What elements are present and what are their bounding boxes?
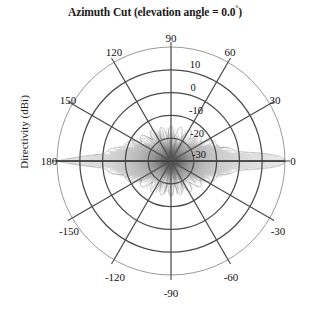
angular-tick-mark (112, 260, 115, 264)
radial-tick-label: -30 (192, 149, 206, 160)
radial-tick-label: 10 (190, 59, 201, 70)
angular-tick-mark (112, 58, 115, 62)
angular-tick-mark (68, 218, 72, 221)
radial-tick-label: 0 (190, 82, 195, 93)
angular-tick-label: -90 (164, 287, 179, 299)
angular-tick-label: 90 (166, 32, 177, 44)
radial-tick-label: -20 (190, 128, 204, 139)
angular-tick-label: 180 (41, 155, 58, 167)
angular-tick-mark (228, 58, 231, 62)
polar-chart-figure: Azimuth Cut (elevation angle = 0.0°) Dir… (0, 0, 310, 314)
radial-tick-label: -10 (189, 105, 203, 116)
angular-tick-label: 60 (225, 46, 236, 58)
angular-tick-label: 0 (290, 155, 296, 167)
angular-tick-mark (228, 260, 231, 264)
angular-tick-label: 150 (60, 94, 77, 106)
angular-tick-label: 120 (106, 46, 123, 58)
angular-tick-mark (270, 218, 274, 221)
angular-tick-label: -30 (271, 225, 286, 237)
angular-tick-label: 30 (270, 94, 281, 106)
angular-tick-label: -120 (105, 271, 125, 283)
angular-tick-label: -60 (224, 271, 239, 283)
angular-tick-label: -150 (59, 225, 79, 237)
